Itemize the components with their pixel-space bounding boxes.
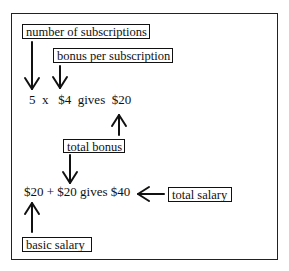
equation-bonus: 5 x $4 gives $20 — [29, 93, 131, 107]
label-basic-salary: basic salary — [22, 237, 92, 252]
label-number-of-subscriptions: number of subscriptions — [22, 24, 150, 39]
label-total-salary: total salary — [168, 187, 232, 202]
label-total-bonus: total bonus — [63, 139, 125, 153]
label-bonus-per-subscription: bonus per subscription — [53, 48, 173, 63]
equation-salary: $20 + $20 gives $40 — [24, 185, 130, 199]
